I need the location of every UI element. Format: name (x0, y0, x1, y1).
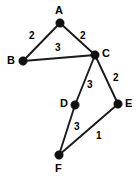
edge-weight-a-c: 2 (80, 31, 86, 41)
node-label-e: E (125, 98, 132, 109)
graph-node-a (56, 19, 64, 27)
node-label-f: F (55, 163, 62, 174)
graph-node-d (71, 101, 79, 109)
node-label-c: C (102, 48, 110, 59)
edge-weight-a-b: 2 (29, 31, 35, 41)
node-label-a: A (55, 5, 63, 16)
graph-node-f (55, 151, 63, 159)
graph-edge-a-c (60, 23, 95, 55)
edge-weight-d-f: 3 (74, 122, 80, 132)
graph-node-b (19, 57, 27, 65)
edge-weight-c-d: 3 (87, 80, 93, 90)
edges-group (23, 23, 118, 155)
graph-canvas (0, 0, 139, 180)
node-label-b: B (7, 55, 15, 66)
graph-node-e (114, 100, 122, 108)
graph-node-c (91, 51, 99, 59)
weighted-graph-diagram: 2233231ABCDEF (0, 0, 139, 180)
graph-edge-b-c (23, 55, 95, 61)
node-label-d: D (60, 98, 68, 109)
edge-weight-e-f: 1 (96, 131, 102, 141)
edge-weight-b-c: 3 (55, 43, 61, 53)
edge-weight-c-e: 2 (113, 73, 119, 83)
